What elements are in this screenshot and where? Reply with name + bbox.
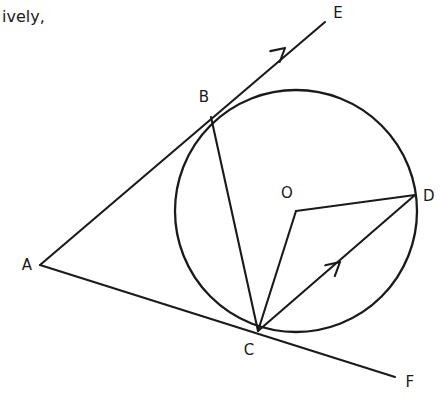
- ray-a-to-e: [40, 22, 325, 265]
- point-label-b: B: [199, 90, 210, 105]
- geometry-figure: ively, A B C D E F O: [0, 0, 441, 400]
- point-label-f: F: [406, 375, 415, 390]
- point-label-e: E: [333, 6, 343, 21]
- radius-o-to-c: [258, 211, 296, 331]
- radius-o-to-d: [296, 195, 415, 211]
- point-label-d: D: [423, 189, 435, 204]
- chord-b-to-c: [211, 117, 258, 331]
- arrowhead-icon-ray-cd: [325, 262, 340, 276]
- point-label-c: C: [244, 343, 255, 358]
- arrowhead-icon-ray-ae: [270, 48, 285, 62]
- ray-a-to-f: [40, 265, 395, 377]
- point-label-a: A: [22, 258, 32, 273]
- geometry-canvas: [0, 0, 441, 400]
- point-label-o: O: [281, 186, 293, 201]
